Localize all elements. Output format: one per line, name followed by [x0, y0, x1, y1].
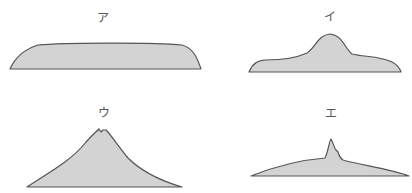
profile-a-plateau — [10, 43, 201, 69]
profile-i-dome — [249, 34, 401, 72]
label-e: エ — [325, 108, 337, 120]
volcano-profiles-diagram — [0, 0, 412, 193]
label-u: ウ — [98, 107, 110, 119]
label-i: イ — [324, 11, 336, 23]
label-a: ア — [97, 12, 109, 24]
profile-u-cone — [27, 129, 182, 187]
profile-e-shield-spike — [251, 139, 409, 176]
